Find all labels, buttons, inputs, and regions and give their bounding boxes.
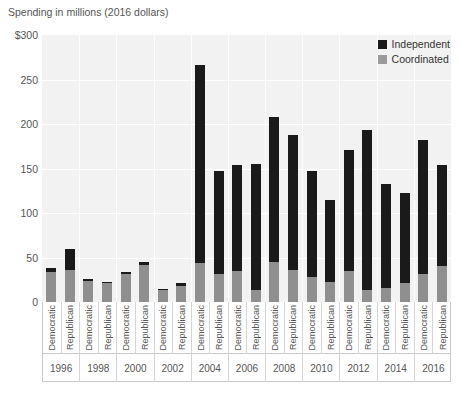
plot-area bbox=[42, 35, 451, 302]
x-axis-label-democratic: Democratic bbox=[378, 302, 397, 354]
y-axis-tick-label: 150 bbox=[2, 163, 38, 175]
bar-2006-republican bbox=[251, 164, 261, 302]
x-axis-label-republican: Republican bbox=[210, 302, 229, 354]
x-axis-label-republican: Republican bbox=[359, 302, 378, 354]
x-axis-label-text: Republican bbox=[400, 305, 410, 350]
x-axis-label-text: Democratic bbox=[270, 305, 280, 351]
bar-segment-coordinated bbox=[83, 281, 93, 302]
year-separator bbox=[302, 35, 303, 302]
bar-2010-democratic bbox=[307, 171, 317, 302]
x-axis-label-text: Republican bbox=[140, 305, 150, 350]
bar-segment-independent bbox=[362, 130, 372, 289]
x-axis-label-democratic: Democratic bbox=[303, 302, 322, 354]
x-axis-label-democratic: Democratic bbox=[192, 302, 211, 354]
chart-container: Spending in millions (2016 dollars) 0501… bbox=[0, 0, 462, 397]
year-separator bbox=[228, 35, 229, 302]
x-axis-label-text: Republican bbox=[251, 305, 261, 350]
bar-2008-democratic bbox=[269, 117, 279, 302]
bar-segment-coordinated bbox=[344, 271, 354, 302]
bar-segment-coordinated bbox=[46, 272, 56, 302]
x-axis-label-text: Democratic bbox=[121, 305, 131, 351]
bar-2014-democratic bbox=[381, 184, 391, 302]
year-label-2008: 2008 bbox=[266, 354, 303, 382]
x-axis-label-republican: Republican bbox=[248, 302, 267, 354]
y-axis-tick-label: $300 bbox=[2, 29, 38, 41]
x-axis-label-republican: Republican bbox=[173, 302, 192, 354]
x-axis-label-text: Republican bbox=[177, 305, 187, 350]
legend-label-coordinated: Coordinated bbox=[392, 53, 449, 65]
bar-2014-republican bbox=[400, 193, 410, 302]
bar-2000-democratic bbox=[121, 272, 131, 302]
bar-2016-republican bbox=[437, 165, 447, 302]
x-axis-year-labels: 1996199820002002200420062008201020122014… bbox=[42, 354, 451, 382]
bar-2002-democratic bbox=[158, 289, 168, 302]
year-label-2002: 2002 bbox=[155, 354, 192, 382]
y-axis-tick-label: 200 bbox=[2, 118, 38, 130]
bar-segment-independent bbox=[288, 135, 298, 270]
y-axis-tick-label: 0 bbox=[2, 296, 38, 308]
bar-segment-coordinated bbox=[65, 270, 75, 302]
year-separator bbox=[116, 35, 117, 302]
bar-segment-independent bbox=[65, 249, 75, 270]
bar-segment-coordinated bbox=[400, 283, 410, 302]
bar-segment-coordinated bbox=[121, 274, 131, 302]
bar-segment-independent bbox=[269, 117, 279, 262]
bar-segment-coordinated bbox=[288, 270, 298, 302]
bar-segment-independent bbox=[195, 65, 205, 263]
x-axis-label-republican: Republican bbox=[62, 302, 81, 354]
year-label-2006: 2006 bbox=[229, 354, 266, 382]
legend-label-independent: Independent bbox=[392, 38, 450, 50]
bar-segment-independent bbox=[232, 165, 242, 271]
bar-segment-coordinated bbox=[139, 265, 149, 302]
y-axis-tick-label: 250 bbox=[2, 74, 38, 86]
x-axis-label-text: Republican bbox=[288, 305, 298, 350]
year-separator bbox=[79, 35, 80, 302]
year-separator bbox=[377, 35, 378, 302]
bar-segment-independent bbox=[381, 184, 391, 288]
chart-legend: Independent Coordinated bbox=[378, 38, 450, 68]
x-axis-party-labels: DemocraticRepublicanDemocraticRepublican… bbox=[42, 302, 451, 354]
x-axis-label-republican: Republican bbox=[396, 302, 415, 354]
bar-segment-coordinated bbox=[232, 271, 242, 302]
x-axis-label-democratic: Democratic bbox=[80, 302, 99, 354]
bar-segment-independent bbox=[400, 193, 410, 284]
bar-1996-republican bbox=[65, 249, 75, 302]
bar-2012-democratic bbox=[344, 150, 354, 302]
bar-segment-independent bbox=[214, 171, 224, 273]
x-axis-label-text: Republican bbox=[326, 305, 336, 350]
x-axis-label-text: Republican bbox=[103, 305, 113, 350]
bar-segment-coordinated bbox=[437, 266, 447, 302]
bar-segment-independent bbox=[251, 164, 261, 289]
year-label-2010: 2010 bbox=[303, 354, 340, 382]
bar-segment-coordinated bbox=[195, 263, 205, 302]
x-axis-label-text: Democratic bbox=[381, 305, 391, 351]
plot-inner bbox=[42, 35, 451, 302]
gridline bbox=[42, 169, 451, 170]
x-axis-label-text: Democratic bbox=[419, 305, 429, 351]
x-axis-label-democratic: Democratic bbox=[340, 302, 359, 354]
bar-2012-republican bbox=[362, 130, 372, 302]
bar-2004-democratic bbox=[195, 65, 205, 302]
x-axis-label-text: Republican bbox=[214, 305, 224, 350]
x-axis-label-republican: Republican bbox=[433, 302, 452, 354]
bar-segment-independent bbox=[437, 165, 447, 266]
y-axis-labels: 050100150200250$300 bbox=[0, 0, 38, 397]
gridline bbox=[42, 80, 451, 81]
x-axis-label-republican: Republican bbox=[99, 302, 118, 354]
bar-2006-democratic bbox=[232, 165, 242, 302]
gridline bbox=[42, 124, 451, 125]
x-axis-label-democratic: Democratic bbox=[155, 302, 174, 354]
bar-1996-democratic bbox=[46, 268, 56, 302]
bar-segment-coordinated bbox=[176, 286, 186, 302]
bar-2000-republican bbox=[139, 262, 149, 302]
bar-segment-coordinated bbox=[214, 274, 224, 302]
legend-swatch-independent-icon bbox=[378, 40, 387, 49]
bar-segment-independent bbox=[418, 140, 428, 274]
bar-segment-coordinated bbox=[251, 290, 261, 302]
year-label-1998: 1998 bbox=[80, 354, 117, 382]
x-axis-label-text: Democratic bbox=[158, 305, 168, 351]
x-axis-label-republican: Republican bbox=[136, 302, 155, 354]
bar-segment-coordinated bbox=[325, 282, 335, 302]
year-separator bbox=[414, 35, 415, 302]
x-axis-label-text: Democratic bbox=[307, 305, 317, 351]
